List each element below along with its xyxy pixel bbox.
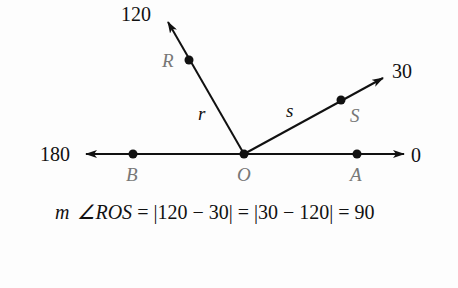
measure-120-label: 120 [121, 3, 151, 25]
point-o-label: O [237, 164, 251, 185]
point-b-label: B [126, 164, 138, 185]
point-r [185, 56, 194, 65]
ray-os [244, 78, 383, 154]
point-s-label: S [350, 105, 360, 126]
equation-angle: ∠ROS [77, 201, 132, 223]
ray-r-label: r [198, 103, 206, 124]
equation-m: m [55, 201, 69, 223]
angle-diagram: 120 30 180 0 R S B O A r s m∠ROS = |120 … [0, 0, 458, 288]
equation-rest: = |120 − 30| = |30 − 120| = 90 [132, 201, 374, 224]
measure-30-label: 30 [392, 60, 412, 82]
point-a-label: A [348, 164, 362, 185]
point-s [337, 96, 346, 105]
angle-equation: m∠ROS = |120 − 30| = |30 − 120| = 90 [55, 201, 375, 224]
measure-180-label: 180 [40, 143, 70, 165]
point-o [240, 150, 249, 159]
point-r-label: R [161, 50, 174, 71]
diagram-canvas: 120 30 180 0 R S B O A r s m∠ROS = |120 … [0, 0, 458, 288]
ray-or [168, 22, 244, 154]
measure-0-label: 0 [411, 144, 421, 166]
point-a [353, 150, 362, 159]
ray-s-label: s [286, 100, 293, 121]
point-b [129, 150, 138, 159]
